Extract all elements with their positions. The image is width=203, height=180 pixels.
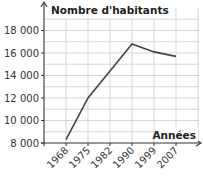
x-tick-label: 1990 <box>111 145 137 171</box>
x-tick-label: 1999 <box>133 145 159 171</box>
x-tick-label: 1982 <box>89 145 115 171</box>
y-tick-label: 10 000 <box>4 115 39 126</box>
x-tick-label: 2007 <box>155 145 181 171</box>
axes <box>41 2 201 146</box>
y-tick-label: 8 000 <box>10 138 39 149</box>
x-tick-label: 1968 <box>45 145 71 171</box>
y-axis-title: Nombre d'habitants <box>51 4 169 16</box>
y-axis-ticks: 8 00010 00012 00014 00016 00018 000 <box>4 25 44 149</box>
population-line-chart: 8 00010 00012 00014 00016 00018 000 1968… <box>0 0 203 180</box>
x-tick-label: 1975 <box>67 145 93 171</box>
population-series-line <box>66 44 176 140</box>
y-tick-label: 16 000 <box>4 48 39 59</box>
y-tick-label: 14 000 <box>4 70 39 81</box>
y-tick-label: 12 000 <box>4 93 39 104</box>
x-axis-ticks: 196819751982199019992007 <box>45 143 181 170</box>
grid <box>44 8 199 143</box>
x-axis-title: Années <box>152 129 196 141</box>
y-tick-label: 18 000 <box>4 25 39 36</box>
